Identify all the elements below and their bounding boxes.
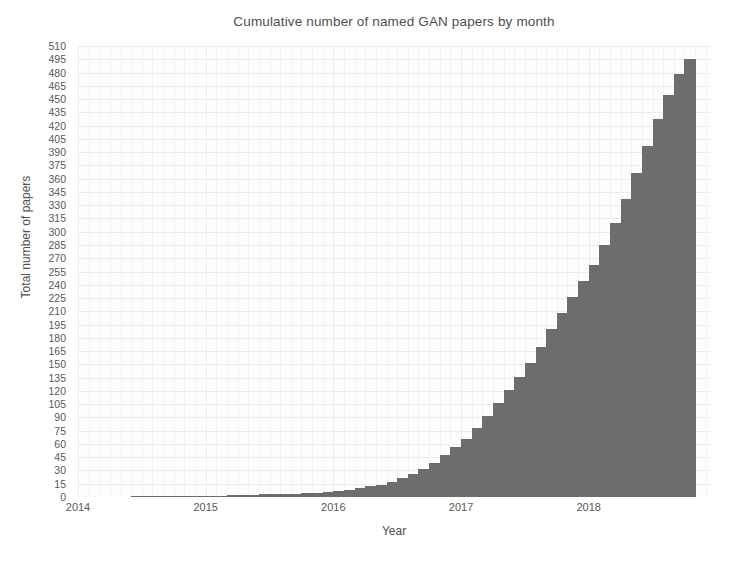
y-tick-label: 165 bbox=[48, 346, 66, 357]
y-tick-label: 360 bbox=[48, 173, 66, 184]
bar bbox=[567, 297, 578, 497]
bar bbox=[461, 439, 472, 497]
bar bbox=[578, 281, 589, 497]
gridline-vertical-minor bbox=[99, 46, 100, 497]
y-tick-label: 315 bbox=[48, 213, 66, 224]
y-tick-label: 405 bbox=[48, 134, 66, 145]
gridline-vertical-minor bbox=[323, 46, 324, 497]
gridline-vertical-minor bbox=[238, 46, 239, 497]
gridline-vertical-minor bbox=[152, 46, 153, 497]
bar bbox=[152, 496, 163, 497]
gridline-horizontal bbox=[78, 46, 710, 47]
y-tick-label: 30 bbox=[54, 465, 66, 476]
bar bbox=[195, 496, 206, 497]
gridline-horizontal bbox=[78, 126, 710, 127]
bar bbox=[514, 377, 525, 497]
x-axis-title: Year bbox=[78, 524, 710, 538]
gridline-horizontal bbox=[78, 112, 710, 113]
gridline-vertical-minor bbox=[216, 46, 217, 497]
bar bbox=[227, 495, 238, 497]
gridline-horizontal bbox=[78, 59, 710, 60]
y-tick-label: 75 bbox=[54, 425, 66, 436]
y-tick-label: 210 bbox=[48, 306, 66, 317]
gridline-horizontal bbox=[78, 179, 710, 180]
bar bbox=[312, 493, 323, 497]
bar bbox=[493, 403, 504, 497]
bar bbox=[684, 59, 695, 497]
x-tick-label: 2017 bbox=[449, 501, 473, 513]
gridline-vertical-minor bbox=[397, 46, 398, 497]
y-tick-label: 345 bbox=[48, 187, 66, 198]
gridline-horizontal bbox=[78, 99, 710, 100]
bar bbox=[238, 495, 249, 497]
bar bbox=[589, 265, 600, 497]
y-tick-label: 255 bbox=[48, 266, 66, 277]
y-tick-label: 240 bbox=[48, 280, 66, 291]
y-tick-label: 450 bbox=[48, 94, 66, 105]
bar bbox=[663, 95, 674, 497]
bar bbox=[482, 416, 493, 497]
gridline-vertical-minor bbox=[184, 46, 185, 497]
bar bbox=[450, 447, 461, 497]
gridline-vertical-minor bbox=[174, 46, 175, 497]
bar bbox=[174, 496, 185, 497]
y-tick-label: 90 bbox=[54, 412, 66, 423]
y-tick-label: 60 bbox=[54, 439, 66, 450]
gridline-vertical-minor bbox=[376, 46, 377, 497]
x-axis-tick-labels: 20142015201620172018 bbox=[78, 501, 710, 519]
bar bbox=[376, 485, 387, 497]
gridline-vertical-minor bbox=[387, 46, 388, 497]
gridline-vertical-minor bbox=[110, 46, 111, 497]
y-tick-label: 105 bbox=[48, 399, 66, 410]
bar bbox=[599, 245, 610, 497]
gridline-horizontal bbox=[78, 205, 710, 206]
gridline-vertical-minor bbox=[248, 46, 249, 497]
bar bbox=[184, 496, 195, 497]
bar bbox=[504, 390, 515, 497]
gridline-vertical-minor bbox=[291, 46, 292, 497]
gridline-vertical-minor bbox=[429, 46, 430, 497]
y-tick-label: 480 bbox=[48, 67, 66, 78]
y-tick-label: 45 bbox=[54, 452, 66, 463]
bar bbox=[344, 490, 355, 497]
gridline-horizontal bbox=[78, 152, 710, 153]
gridline-vertical-minor bbox=[121, 46, 122, 497]
y-tick-label: 150 bbox=[48, 359, 66, 370]
bar bbox=[280, 494, 291, 497]
gridline-vertical-minor bbox=[440, 46, 441, 497]
bar bbox=[216, 496, 227, 497]
bar bbox=[397, 478, 408, 497]
y-tick-label: 225 bbox=[48, 293, 66, 304]
gridline-vertical-major bbox=[206, 46, 207, 497]
gridline-vertical-minor bbox=[227, 46, 228, 497]
y-tick-label: 465 bbox=[48, 81, 66, 92]
bar bbox=[642, 146, 653, 497]
bar bbox=[536, 347, 547, 497]
gridline-vertical-minor bbox=[706, 46, 707, 497]
x-tick-label: 2015 bbox=[193, 501, 217, 513]
y-tick-label: 510 bbox=[48, 41, 66, 52]
gridline-vertical-minor bbox=[355, 46, 356, 497]
bar bbox=[525, 363, 536, 497]
bar bbox=[631, 173, 642, 497]
gridline-vertical-minor bbox=[365, 46, 366, 497]
bar bbox=[557, 313, 568, 497]
bar bbox=[291, 494, 302, 497]
bar bbox=[429, 463, 440, 497]
y-tick-label: 15 bbox=[54, 478, 66, 489]
gridline-vertical-minor bbox=[312, 46, 313, 497]
bar bbox=[206, 496, 217, 497]
gridline-vertical-minor bbox=[270, 46, 271, 497]
bar bbox=[301, 493, 312, 497]
gridline-horizontal bbox=[78, 165, 710, 166]
bar bbox=[472, 428, 483, 497]
y-tick-label: 120 bbox=[48, 386, 66, 397]
gridline-vertical-minor bbox=[195, 46, 196, 497]
bar bbox=[408, 474, 419, 497]
gridline-vertical-major bbox=[333, 46, 334, 497]
chart-figure: Cumulative number of named GAN papers by… bbox=[0, 0, 731, 561]
bar bbox=[248, 495, 259, 497]
gridline-vertical-minor bbox=[259, 46, 260, 497]
bar bbox=[270, 494, 281, 497]
bar bbox=[440, 455, 451, 497]
